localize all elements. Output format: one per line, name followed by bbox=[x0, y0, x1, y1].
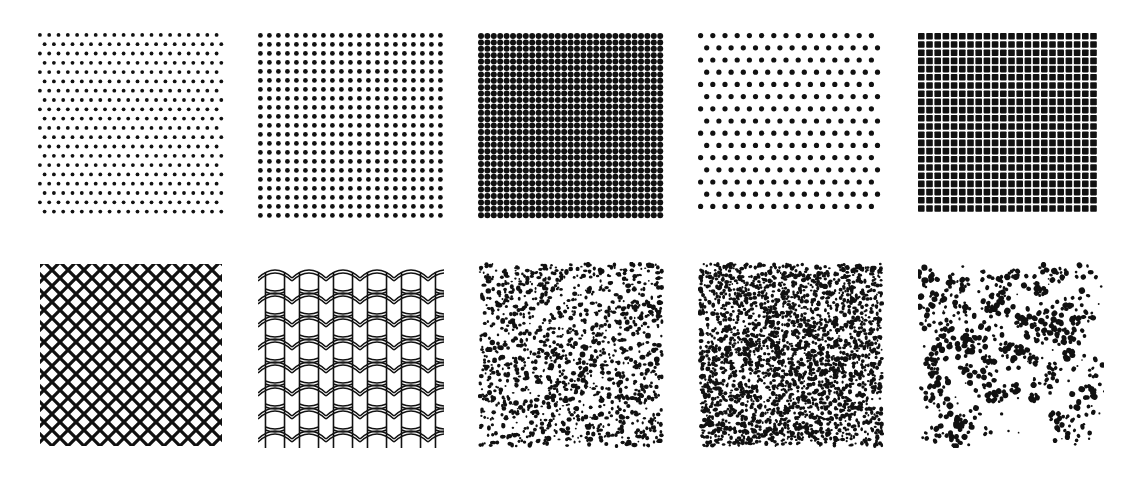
pattern-tile-dots-staggered-fine bbox=[38, 33, 224, 219]
pattern-tile-random-speckle-dense bbox=[698, 262, 884, 448]
pattern-tile-diamond-lattice bbox=[38, 262, 224, 448]
pattern-tile-squares-grid bbox=[918, 33, 1104, 219]
pattern-tile-dots-diagonal bbox=[698, 33, 884, 219]
pattern-tile-leopard-rosettes bbox=[918, 262, 1104, 448]
pattern-tile-dots-square-grid bbox=[258, 33, 444, 219]
pattern-tile-dots-dense-grid bbox=[478, 33, 664, 219]
pattern-tile-random-speckle-sparse bbox=[478, 262, 664, 448]
pattern-tile-roof-tiles bbox=[258, 262, 444, 448]
